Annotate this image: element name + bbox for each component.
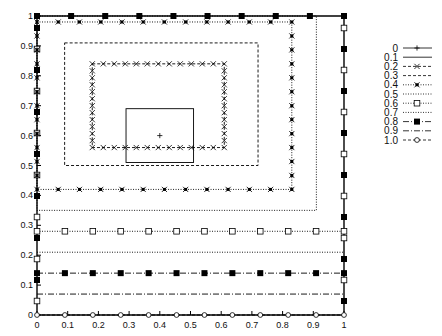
y-tick-label: 0 bbox=[28, 310, 33, 320]
x-tick-label: 0.2 bbox=[92, 320, 105, 330]
contour-chart: 00.10.20.30.40.50.60.70.80.9100.10.20.30… bbox=[0, 0, 442, 336]
y-tick-label: 1 bbox=[28, 11, 33, 21]
x-tick-label: 0.9 bbox=[307, 320, 320, 330]
x-tick-label: 0.6 bbox=[215, 320, 228, 330]
series-0 bbox=[157, 133, 162, 138]
x-tick-label: 0 bbox=[34, 320, 39, 330]
x-tick-label: 0.7 bbox=[246, 320, 259, 330]
series-0-4 bbox=[34, 19, 294, 192]
plot-axes: 00.10.20.30.40.50.60.70.80.9100.10.20.30… bbox=[20, 11, 347, 330]
y-tick-label: 0.2 bbox=[20, 250, 33, 260]
x-tick-label: 0.4 bbox=[154, 320, 167, 330]
legend-item: 1.0 bbox=[384, 135, 432, 146]
x-tick-label: 0.5 bbox=[184, 320, 197, 330]
legend-label: 1.0 bbox=[384, 135, 398, 146]
legend: 00.10.20.30.40.50.60.70.80.91.0 bbox=[384, 43, 432, 146]
series-0-8 bbox=[34, 270, 347, 276]
x-tick-label: 1 bbox=[341, 320, 346, 330]
y-tick-label: 0.4 bbox=[20, 190, 33, 200]
y-tick-label: 0.6 bbox=[20, 131, 33, 141]
plot-area bbox=[34, 16, 347, 317]
y-tick-label: 0.7 bbox=[20, 101, 33, 111]
x-tick-label: 0.3 bbox=[123, 320, 136, 330]
legend-item: 0 bbox=[392, 43, 432, 54]
y-tick-label: 0.3 bbox=[20, 220, 33, 230]
y-tick-label: 0.5 bbox=[20, 161, 33, 171]
y-tick-label: 0.1 bbox=[20, 280, 33, 290]
x-tick-label: 0.1 bbox=[61, 320, 74, 330]
series-0-5 bbox=[37, 16, 316, 210]
x-tick-label: 0.8 bbox=[276, 320, 289, 330]
series-0-2 bbox=[90, 61, 227, 150]
y-tick-label: 0.9 bbox=[20, 41, 33, 51]
series-0-6 bbox=[34, 228, 347, 234]
y-tick-label: 0.8 bbox=[20, 71, 33, 81]
